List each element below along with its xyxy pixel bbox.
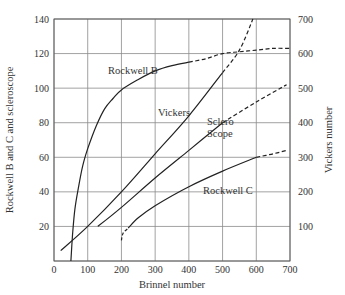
- x-tick-label: 0: [52, 264, 57, 275]
- curve-vickers-solid: [61, 73, 223, 251]
- y-right-tick-label: 500: [298, 83, 313, 94]
- label-scope: Scope: [207, 128, 233, 139]
- x-axis-ticks: 0100200300400500600700: [52, 264, 298, 275]
- y-tick-label: 20: [39, 221, 49, 232]
- x-tick-label: 700: [283, 264, 298, 275]
- y-tick-label: 40: [39, 186, 49, 197]
- y-right-tick-label: 200: [298, 186, 313, 197]
- x-tick-label: 200: [114, 264, 129, 275]
- x-tick-label: 400: [181, 264, 196, 275]
- y-right-tick-label: 400: [298, 117, 313, 128]
- y-tick-label: 80: [39, 117, 49, 128]
- y-axis-ticks: 20406080100120140: [34, 14, 49, 232]
- y-axis-title: Rockwell B and C and scleroscope: [4, 66, 15, 213]
- y-right-tick-label: 100: [298, 221, 313, 232]
- y-tick-label: 120: [34, 48, 49, 59]
- curves: [61, 19, 290, 261]
- x-axis-title: Brinnel number: [139, 279, 206, 290]
- curve-rockwell-c-dashed: [256, 150, 286, 157]
- hardness-conversion-chart: 0100200300400500600700 20406080100120140…: [0, 0, 345, 295]
- curve-vickers-dashed: [223, 19, 253, 73]
- x-tick-label: 500: [215, 264, 230, 275]
- y-right-axis-ticks: 100200300400500600700: [298, 14, 313, 232]
- y-right-tick-label: 300: [298, 152, 313, 163]
- label-vickers: Vickers: [158, 107, 190, 118]
- x-tick-label: 600: [249, 264, 264, 275]
- curve-rockwell-b-solid: [71, 62, 189, 261]
- curve-rockwell-c-dashed-start: [121, 228, 128, 240]
- y-tick-label: 60: [39, 152, 49, 163]
- y-right-tick-label: 700: [298, 14, 313, 25]
- label-sclero: Sclero: [207, 116, 234, 127]
- x-tick-label: 300: [148, 264, 163, 275]
- curve-sclero-scope-solid: [98, 123, 223, 227]
- y-right-axis-title: Vickers number: [323, 106, 334, 173]
- y-right-tick-label: 600: [298, 48, 313, 59]
- y-tick-label: 100: [34, 83, 49, 94]
- x-tick-label: 100: [80, 264, 95, 275]
- y-tick-label: 140: [34, 14, 49, 25]
- label-rockwell-b: Rockwell B: [108, 65, 158, 76]
- label-rockwell-c: Rockwell C: [203, 185, 253, 196]
